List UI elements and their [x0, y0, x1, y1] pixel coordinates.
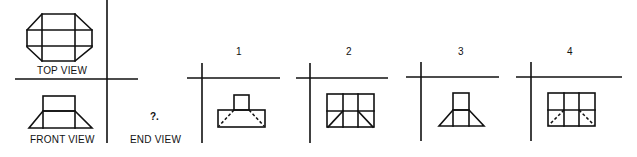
- projection-diagram: TOP VIEW FRONT VIEW ?. END VIEW 1 2 3: [0, 0, 637, 157]
- front-view-trapezoid: [29, 111, 92, 128]
- option-1[interactable]: 1: [187, 46, 280, 143]
- option-4[interactable]: 4: [516, 46, 622, 141]
- unknown-end-view-marker: ?.: [150, 111, 159, 122]
- front-view-label: FRONT VIEW: [30, 134, 95, 145]
- front-view-upper-block: [43, 96, 75, 111]
- option-3-label: 3: [458, 46, 464, 57]
- top-view-octagon: [27, 14, 92, 61]
- option-3[interactable]: 3: [406, 46, 499, 141]
- option-2[interactable]: 2: [296, 46, 388, 143]
- option-4-label: 4: [567, 46, 573, 57]
- option-1-label: 1: [236, 46, 242, 57]
- top-view-label: TOP VIEW: [37, 65, 87, 76]
- front-view-drawing: [29, 96, 92, 128]
- top-view-drawing: [27, 14, 92, 61]
- option-2-label: 2: [346, 46, 352, 57]
- end-view-label: END VIEW: [130, 134, 181, 145]
